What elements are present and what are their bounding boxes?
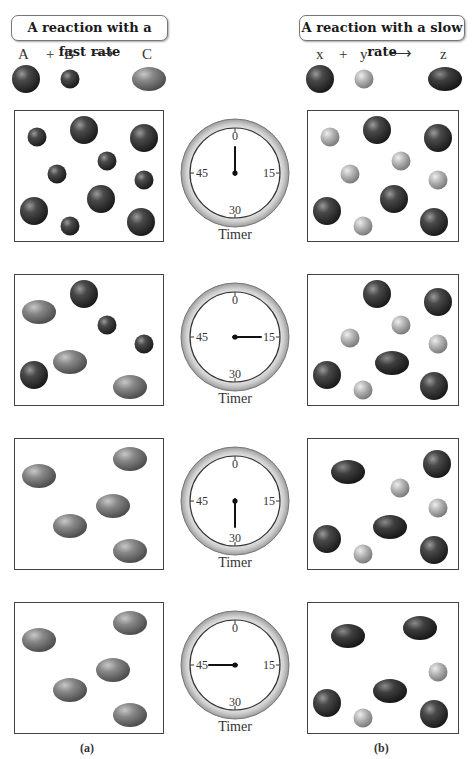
timer-tick-label: 30 (229, 695, 241, 709)
molecule-b-icon (98, 152, 117, 171)
timer-tick-label: 30 (229, 367, 241, 381)
timer-tick-label: 45 (196, 494, 208, 508)
timer-tick-label: 15 (263, 330, 275, 344)
molecule-b-icon (48, 165, 67, 184)
molecule-c-icon (53, 350, 87, 374)
molecule-c-icon (53, 514, 87, 538)
molecule-c-icon (132, 67, 166, 91)
molecule-x-icon (313, 197, 341, 225)
molecule-a-icon (70, 280, 98, 308)
timer-clock: 0153045Timer (179, 117, 291, 251)
molecule-z-icon (373, 679, 407, 703)
fast-reaction-panel (14, 602, 164, 734)
molecule-y-icon (429, 335, 448, 354)
molecule-z-icon (403, 616, 437, 640)
fast-reaction-panel (14, 110, 164, 242)
molecule-y-icon (429, 663, 448, 682)
molecule-y-icon (429, 499, 448, 518)
molecule-y-icon (354, 217, 373, 236)
timer-clock: 0153045Timer (179, 281, 291, 415)
molecule-c-icon (113, 703, 147, 727)
caption-b: (b) (374, 741, 389, 756)
molecule-a-icon (70, 116, 98, 144)
molecule-y-icon (321, 128, 340, 147)
molecule-x-icon (313, 689, 341, 717)
molecule-x-icon (424, 124, 452, 152)
molecule-x-icon (423, 450, 451, 478)
molecule-c-icon (113, 447, 147, 471)
timer-tick-label: 0 (232, 457, 238, 471)
molecule-x-icon (313, 525, 341, 553)
molecule-z-icon (331, 624, 365, 648)
molecule-y-icon (354, 709, 373, 728)
molecule-c-icon (22, 464, 56, 488)
molecule-z-icon (428, 67, 462, 91)
title-slow-rate: A reaction with a slow rate (299, 15, 465, 41)
molecule-b-icon (61, 217, 80, 236)
molecule-x-icon (380, 185, 408, 213)
molecule-c-icon (113, 375, 147, 399)
molecule-b-icon (135, 335, 154, 354)
timer-hub-icon (232, 498, 237, 503)
molecule-y-icon (429, 171, 448, 190)
slow-reaction-panel (307, 602, 459, 734)
timer-tick-label: 45 (196, 658, 208, 672)
timer-clock: 0153045Timer (179, 609, 291, 743)
molecule-x-icon (420, 536, 448, 564)
molecule-y-icon (354, 381, 373, 400)
timer-hub-icon (232, 334, 237, 339)
molecule-a-icon (87, 185, 115, 213)
molecule-a-icon (127, 208, 155, 236)
molecule-x-icon (420, 208, 448, 236)
molecule-c-icon (113, 611, 147, 635)
timer-tick-label: 15 (263, 166, 275, 180)
molecule-a-icon (20, 197, 48, 225)
timer-hub-icon (232, 662, 237, 667)
fast-reaction-panel (14, 274, 164, 406)
molecule-z-icon (373, 515, 407, 539)
timer-label: Timer (205, 391, 265, 407)
molecule-x-icon (424, 288, 452, 316)
fast-reaction-panel (14, 438, 164, 570)
molecule-y-icon (392, 316, 411, 335)
title-fast-rate: A reaction with a fast rate (11, 15, 168, 41)
molecule-legend (0, 58, 472, 98)
molecule-c-icon (96, 658, 130, 682)
timer-tick-label: 0 (232, 293, 238, 307)
molecule-x-icon (420, 700, 448, 728)
timer-label: Timer (205, 227, 265, 243)
molecule-a-icon (20, 361, 48, 389)
timer-tick-label: 30 (229, 531, 241, 545)
timer-label: Timer (205, 719, 265, 735)
timer-tick-label: 15 (263, 494, 275, 508)
molecule-y-icon (341, 329, 360, 348)
molecule-b-icon (135, 171, 154, 190)
timer-tick-label: 45 (196, 330, 208, 344)
molecule-a-icon (130, 124, 158, 152)
molecule-z-icon (331, 460, 365, 484)
molecule-c-icon (96, 494, 130, 518)
molecule-c-icon (53, 678, 87, 702)
molecule-x-icon (363, 116, 391, 144)
molecule-y-icon (341, 165, 360, 184)
timer-tick-label: 30 (229, 203, 241, 217)
molecule-y-icon (392, 152, 411, 171)
molecule-b-icon (61, 70, 80, 89)
molecule-a-icon (12, 65, 40, 93)
timer-tick-label: 0 (232, 621, 238, 635)
molecule-y-icon (355, 70, 374, 89)
slow-reaction-panel (307, 438, 459, 570)
molecule-x-icon (313, 361, 341, 389)
molecule-b-icon (98, 316, 117, 335)
caption-a: (a) (80, 741, 94, 756)
timer-tick-label: 15 (263, 658, 275, 672)
timer-clock: 0153045Timer (179, 445, 291, 579)
molecule-x-icon (306, 65, 334, 93)
molecule-c-icon (113, 539, 147, 563)
molecule-y-icon (354, 545, 373, 564)
timer-tick-label: 45 (196, 166, 208, 180)
molecule-c-icon (22, 628, 56, 652)
molecule-y-icon (391, 479, 410, 498)
timer-label: Timer (205, 555, 265, 571)
molecule-x-icon (363, 280, 391, 308)
